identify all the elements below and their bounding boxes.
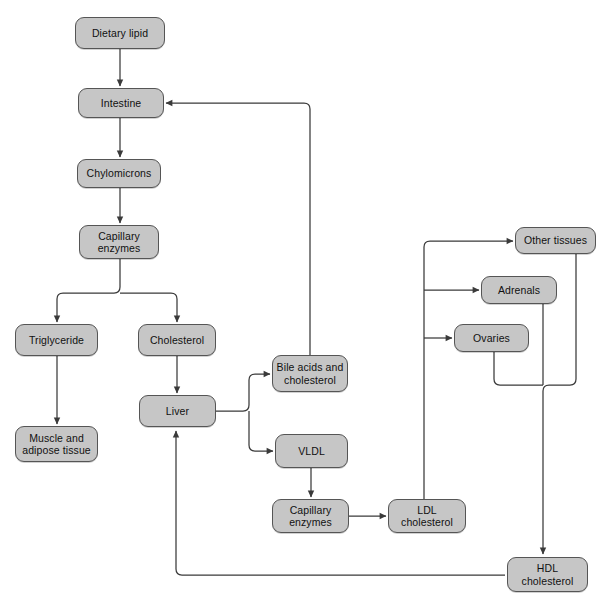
- node-muscle_adipose[interactable]: Muscle and adipose tissue: [15, 426, 98, 462]
- flow-edge-capillary-split-right: [120, 293, 177, 322]
- flow-edge-capillary-split-left: [57, 259, 120, 322]
- node-capillary_enz_1[interactable]: Capillary enzymes: [79, 225, 159, 259]
- node-label: Cholesterol: [150, 334, 204, 346]
- node-bile_acids[interactable]: Bile acids and cholesterol: [272, 355, 348, 392]
- node-triglyceride[interactable]: Triglyceride: [15, 324, 98, 356]
- node-ovaries[interactable]: Ovaries: [454, 324, 529, 352]
- node-label: Muscle and adipose tissue: [22, 432, 91, 457]
- flow-edge-bile-acids-to-intestine: [166, 103, 310, 355]
- node-label: Adrenals: [498, 284, 540, 296]
- node-capillary_enz_2[interactable]: Capillary enzymes: [272, 499, 349, 533]
- flow-edge-liver-to-vldl: [249, 411, 273, 451]
- node-vldl[interactable]: VLDL: [275, 434, 348, 468]
- node-label: Capillary enzymes: [98, 230, 141, 255]
- node-hdl_cholesterol[interactable]: HDL cholesterol: [507, 557, 588, 592]
- flow-edge-liver-to-bile-acids: [216, 374, 270, 411]
- node-label: Other tissues: [524, 234, 587, 246]
- node-label: Intestine: [101, 97, 142, 109]
- node-label: Bile acids and cholesterol: [277, 361, 344, 386]
- node-label: HDL cholesterol: [522, 562, 574, 587]
- node-label: Chylomicrons: [87, 167, 152, 179]
- flowchart-canvas: Dietary lipidIntestineChylomicronsCapill…: [0, 0, 608, 601]
- node-chylomicrons[interactable]: Chylomicrons: [77, 159, 161, 188]
- node-label: Liver: [166, 405, 189, 417]
- node-dietary_lipid[interactable]: Dietary lipid: [75, 17, 165, 49]
- flow-edge-ovaries-to-merge: [494, 352, 543, 385]
- node-adrenals[interactable]: Adrenals: [481, 276, 557, 304]
- node-label: Triglyceride: [29, 334, 84, 346]
- node-intestine[interactable]: Intestine: [78, 88, 164, 118]
- node-label: Capillary enzymes: [289, 504, 332, 529]
- node-ldl_cholesterol[interactable]: LDL cholesterol: [388, 499, 466, 533]
- node-cholesterol[interactable]: Cholesterol: [138, 324, 216, 356]
- node-label: LDL cholesterol: [401, 504, 453, 529]
- node-other_tissues[interactable]: Other tissues: [515, 227, 596, 254]
- node-label: Dietary lipid: [92, 27, 148, 39]
- node-label: Ovaries: [473, 332, 510, 344]
- node-label: VLDL: [298, 445, 325, 457]
- node-liver[interactable]: Liver: [139, 395, 216, 427]
